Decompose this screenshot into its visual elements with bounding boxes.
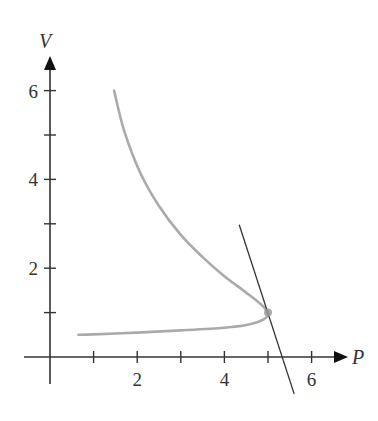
axes bbox=[24, 56, 348, 384]
chart: 246246PV bbox=[0, 0, 378, 421]
x-axis-arrow-icon bbox=[334, 351, 348, 363]
chart-canvas: 246246PV bbox=[0, 0, 378, 421]
curve-line bbox=[78, 91, 268, 335]
y-tick-label: 2 bbox=[29, 258, 39, 279]
y-tick-label: 4 bbox=[29, 169, 39, 190]
series-layer bbox=[78, 91, 294, 394]
x-tick-label: 2 bbox=[132, 369, 142, 390]
x-axis-title: P bbox=[351, 346, 364, 368]
tangent-point-marker bbox=[264, 309, 272, 317]
y-axis-arrow-icon bbox=[44, 56, 56, 70]
y-tick-label: 6 bbox=[29, 81, 39, 102]
y-axis-title: V bbox=[39, 30, 54, 52]
x-tick-label: 6 bbox=[307, 369, 317, 390]
x-tick-label: 4 bbox=[220, 369, 230, 390]
